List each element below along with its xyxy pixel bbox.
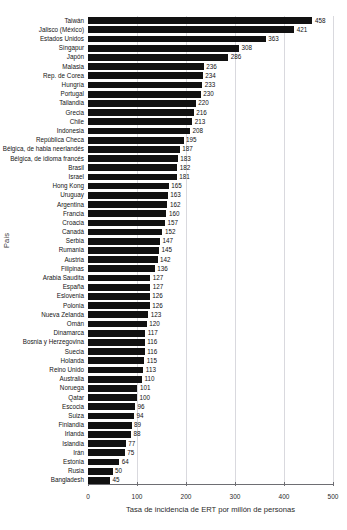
category-label: Argentina [57,201,84,207]
bar [88,164,177,171]
bar-row: Bosnia y Herzegovina116 [88,338,333,347]
bar-row: España127 [88,283,333,292]
bar-value-label: 116 [147,348,157,354]
bar-value-label: 216 [196,109,207,115]
bar-value-label: 363 [268,36,279,42]
category-label: Escocia [62,404,84,410]
bar-row: Japón286 [88,53,333,62]
bar-value-label: 89 [134,422,141,428]
bar [88,100,196,107]
category-label: Polonia [63,303,84,309]
bar [88,422,132,429]
bar-value-label: 421 [297,27,308,33]
bar-row: Malasia236 [88,62,333,71]
category-label: Dinamarca [54,330,84,336]
category-label: Holanda [61,358,84,364]
bar-row: Suiza94 [88,411,333,420]
bar [88,91,201,98]
bar-value-label: 116 [147,339,157,345]
bar [88,431,131,438]
category-label: Qatar [68,394,84,400]
category-label: Grecia [65,109,84,115]
bar-value-label: 126 [152,293,163,299]
bar [88,293,150,300]
bar [88,459,119,466]
bar-row: Rep. de Corea234 [88,71,333,80]
bar [88,201,167,208]
bar [88,311,148,318]
bar-row: Polonia126 [88,301,333,310]
category-label: Irán [73,450,84,456]
bar [88,339,145,346]
bar [88,82,202,89]
x-axis-tick-label: 500 [328,493,339,500]
category-label: Jalisco (México) [39,27,84,33]
category-label: Eslovenia [57,293,84,299]
bar-row: Bélgica, de habla neerlandés187 [88,145,333,154]
bar [88,468,113,475]
category-label: Israel [69,174,84,180]
bar-value-label: 136 [157,266,168,272]
bar-value-label: 115 [147,358,157,364]
bar [88,256,158,263]
bar-row: Irán75 [88,448,333,457]
bar-value-label: 94 [137,413,144,419]
bar-value-label: 101 [140,385,151,391]
bar [88,321,147,328]
bar [88,367,143,374]
category-label: Taiwán [64,17,84,23]
bar [88,275,150,282]
bar-row: Rumania145 [88,246,333,255]
category-label: Chile [70,119,84,125]
bar-row: Hong Kong165 [88,182,333,191]
bar-value-label: 286 [231,54,242,60]
scan-artifact-text [34,1,320,8]
bar-row: Bélgica, de idioma francés183 [88,154,333,163]
category-label: Islandia [62,440,84,446]
bar-row: Indonesia208 [88,126,333,135]
bar [88,284,150,291]
category-label: Hong Kong [52,183,84,189]
category-label: República Checa [36,137,84,143]
category-label: Rep. de Corea [43,73,84,79]
bar-row: Israel181 [88,172,333,181]
gridline [333,16,334,485]
x-axis-tick-label: 400 [279,493,290,500]
bar-value-label: 152 [165,229,176,235]
bar-value-label: 110 [144,376,154,382]
bar-value-label: 127 [153,275,164,281]
bar [88,376,142,383]
category-label: Bélgica, de idioma francés [10,155,84,161]
bar-row: Escocia96 [88,402,333,411]
bar-value-label: 157 [167,220,178,226]
plot-area: 0100200300400500Taiwán458Jalisco (México… [88,16,333,485]
bar-row: Rusia50 [88,467,333,476]
bar-value-label: 75 [127,450,134,456]
bar-value-label: 88 [134,431,141,437]
bar [88,229,162,236]
bar-value-label: 160 [169,211,180,217]
bar-row: Portugal230 [88,90,333,99]
bar-row: Qatar100 [88,393,333,402]
bar [88,348,145,355]
category-label: Bosnia y Herzegovina [23,339,84,345]
bar [88,174,177,181]
bar [88,413,134,420]
bar-value-label: 195 [186,137,197,143]
bar-row: Suecia116 [88,347,333,356]
bar-value-label: 120 [149,321,160,327]
bar [88,146,180,153]
bar-value-label: 208 [192,128,203,134]
category-label: Australia [60,376,85,382]
bar [88,54,228,61]
bar-row: Singapur308 [88,44,333,53]
bar [88,449,125,456]
x-axis-tick [333,482,334,486]
bar-value-label: 233 [205,82,216,88]
category-label: Estados Unidos [40,36,84,42]
y-axis-title: País [2,233,11,248]
bar-row: Serbia147 [88,237,333,246]
category-label: Rusia [68,468,84,474]
bar [88,210,166,217]
bar-value-label: 145 [162,247,173,253]
